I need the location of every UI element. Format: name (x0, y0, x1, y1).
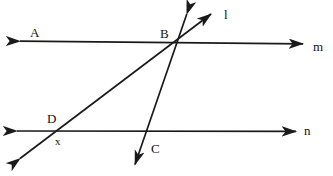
label-point-a: A (30, 26, 39, 39)
label-line-m: m (313, 40, 323, 53)
label-point-b: B (160, 27, 169, 40)
label-point-c: C (151, 142, 160, 155)
label-line-l: l (224, 8, 228, 21)
label-line-n: n (304, 124, 311, 137)
transversal-l (20, 14, 211, 159)
line-m (20, 41, 303, 44)
label-angle-x: x (55, 136, 61, 147)
geometry-diagram: A B l m D x C n (0, 0, 333, 176)
label-point-d: D (47, 112, 56, 125)
